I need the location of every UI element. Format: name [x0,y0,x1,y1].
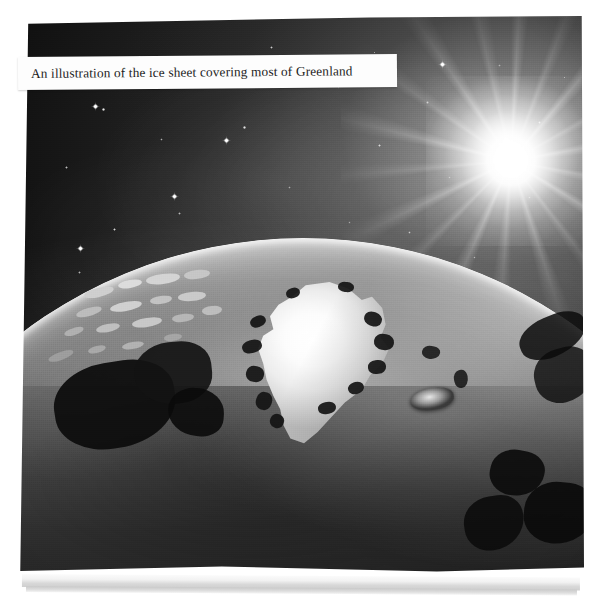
image-caption: An illustration of the ice sheet coverin… [18,54,397,90]
caption-label: An illustration of the ice sheet coverin… [31,63,353,82]
photo-vignette [18,16,584,572]
scanned-page: An illustration of the ice sheet coverin… [0,0,611,611]
photograph [18,16,584,572]
